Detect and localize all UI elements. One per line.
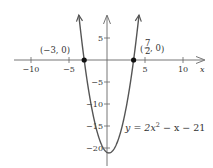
x-intercept-point-right bbox=[131, 57, 136, 62]
y-tick-label: −20 bbox=[86, 144, 103, 153]
y-tick-label: −5 bbox=[91, 78, 103, 87]
x-tick-label: 5 bbox=[142, 65, 147, 74]
x-axis: x bbox=[14, 57, 205, 75]
equation-label: y = 2x2 − x − 21 bbox=[124, 121, 205, 133]
svg-text:): ) bbox=[161, 44, 164, 54]
svg-text:, 0: , 0 bbox=[150, 43, 161, 53]
x-axis-label: x bbox=[200, 65, 205, 74]
x-tick-label: −5 bbox=[63, 65, 75, 74]
x-tick-label: −10 bbox=[23, 65, 40, 74]
y-tick-label: −10 bbox=[86, 100, 103, 109]
x-tick-label: 10 bbox=[178, 65, 188, 74]
x-intercept-point-left bbox=[82, 57, 87, 62]
x-intercept-label-right: ( 7 2 , 0 ) bbox=[140, 38, 164, 56]
x-intercept-label-left: (−3, 0) bbox=[40, 45, 70, 55]
y-tick-label: 5 bbox=[98, 34, 103, 43]
parabola-graph: x −10−5510 5−5−10−15−20 (−3, 0) ( 7 2 , … bbox=[0, 0, 213, 168]
svg-text:(: ( bbox=[140, 44, 143, 54]
